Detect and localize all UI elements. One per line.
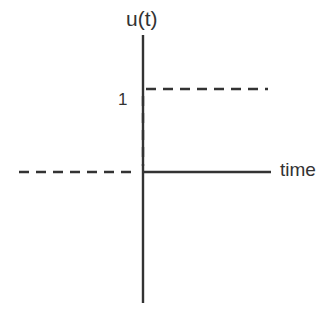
unit-level-label: 1 (118, 91, 127, 108)
step-function-diagram: u(t) 1 time (0, 0, 330, 321)
x-axis-label: time (280, 160, 316, 179)
y-axis-label: u(t) (126, 8, 158, 29)
